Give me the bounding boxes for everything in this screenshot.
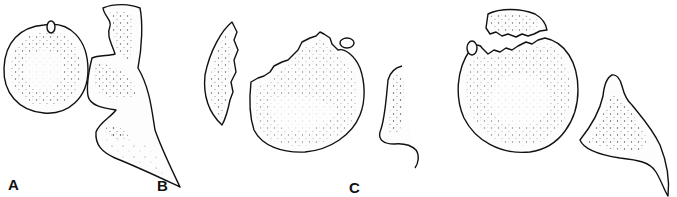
panel-b-head bbox=[250, 32, 364, 152]
panel-c-drawing bbox=[458, 10, 668, 197]
panel-c-wing bbox=[580, 75, 669, 196]
panel-label-a: A bbox=[8, 177, 19, 192]
panel-b-drawing bbox=[205, 22, 419, 168]
panel-c-head bbox=[458, 38, 578, 152]
drawing-canvas bbox=[0, 0, 677, 197]
panel-label-b: B bbox=[157, 178, 168, 193]
figure: A B C bbox=[0, 0, 677, 197]
panel-a-head bbox=[4, 21, 88, 113]
panel-a-wing bbox=[87, 5, 180, 187]
panel-b-right-fragment bbox=[380, 66, 419, 168]
panel-c-cap-fragment bbox=[486, 10, 547, 38]
panel-label-c: C bbox=[349, 180, 360, 195]
panel-b-left-fragment bbox=[205, 22, 238, 125]
panel-a-drawing bbox=[4, 5, 180, 187]
